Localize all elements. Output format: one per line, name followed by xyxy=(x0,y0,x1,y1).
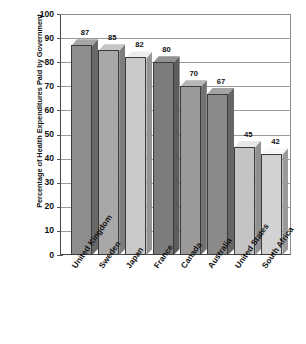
y-tick-mark xyxy=(57,255,63,256)
bar-value-label: 67 xyxy=(206,78,236,86)
bar xyxy=(125,51,146,255)
y-tick-label: 30 xyxy=(30,178,54,187)
bar-front-face xyxy=(207,94,228,255)
bar xyxy=(71,39,92,255)
bar-front-face xyxy=(153,62,174,255)
y-tick-label: 10 xyxy=(30,226,54,235)
y-tick-label: 80 xyxy=(30,58,54,67)
bar-value-label: 80 xyxy=(152,46,182,54)
y-tick-label: 100 xyxy=(30,10,54,19)
bar xyxy=(153,56,174,255)
bar-front-face xyxy=(180,86,201,255)
bar-front-face xyxy=(125,57,146,255)
bar-value-label: 82 xyxy=(124,41,154,49)
bar-side-face xyxy=(119,44,125,255)
bar-side-face xyxy=(228,88,234,255)
y-tick-label: 50 xyxy=(30,130,54,139)
bar-side-face xyxy=(92,39,98,255)
y-tick-label: 60 xyxy=(30,106,54,115)
bar-value-label: 42 xyxy=(260,138,290,146)
bar-side-face xyxy=(174,56,180,255)
bar-value-label: 85 xyxy=(97,34,127,42)
y-tick-label: 70 xyxy=(30,82,54,91)
y-tick-label: 20 xyxy=(30,202,54,211)
bar-side-face xyxy=(146,51,152,255)
bar-side-face xyxy=(201,80,207,255)
y-tick-label: 0 xyxy=(30,251,54,260)
y-tick-label: 40 xyxy=(30,154,54,163)
bar-value-label: 70 xyxy=(179,70,209,78)
bar-value-label: 45 xyxy=(233,131,263,139)
y-tick-label: 90 xyxy=(30,34,54,43)
bar xyxy=(180,80,201,255)
bar xyxy=(207,88,228,255)
bar-chart: Percentage of Health Expenditures Paid b… xyxy=(0,0,306,344)
bar-value-label: 87 xyxy=(70,29,100,37)
bar-front-face xyxy=(71,45,92,255)
